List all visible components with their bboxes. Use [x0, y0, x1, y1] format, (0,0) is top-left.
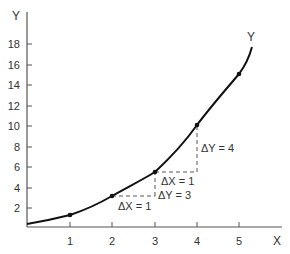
y-tick-8: 8 [14, 141, 20, 153]
delta-y-4: ΔY = 4 [201, 142, 234, 154]
delta-x-2: ΔX = 1 [161, 175, 194, 187]
curve-line [27, 47, 252, 224]
annotations: ΔX = 1 ΔY = 3 ΔX = 1 ΔY = 4 [118, 142, 234, 212]
delta-x-1: ΔX = 1 [118, 200, 151, 212]
point-3 [153, 170, 158, 175]
y-tick-labels: 18 16 14 12 10 8 6 4 2 [8, 38, 20, 214]
x-tick-3: 3 [152, 235, 158, 247]
chart: Y X 18 16 14 12 10 8 6 4 2 1 2 3 4 5 [0, 0, 290, 254]
y-tick-10: 10 [8, 120, 20, 132]
y-tick-16: 16 [8, 59, 20, 71]
x-tick-labels: 1 2 3 4 5 [67, 235, 242, 247]
point-5 [237, 72, 242, 77]
y-tick-2: 2 [14, 202, 20, 214]
x-tick-5: 5 [236, 235, 242, 247]
y-tick-14: 14 [8, 79, 20, 91]
y-tick-12: 12 [8, 100, 20, 112]
x-tick-1: 1 [67, 235, 73, 247]
y-tick-18: 18 [8, 38, 20, 50]
y-tick-6: 6 [14, 161, 20, 173]
point-4 [195, 123, 200, 128]
x-ticks [70, 222, 239, 227]
x-axis-label: X [273, 234, 281, 248]
point-1 [68, 213, 73, 218]
x-tick-2: 2 [109, 235, 115, 247]
y-tick-4: 4 [14, 182, 20, 194]
y-ticks [27, 44, 32, 208]
curve-label: Y [247, 30, 255, 44]
y-axis-label: Y [12, 9, 20, 23]
x-tick-4: 4 [194, 235, 200, 247]
delta-y-3: ΔY = 3 [158, 189, 191, 201]
point-2 [110, 194, 115, 199]
